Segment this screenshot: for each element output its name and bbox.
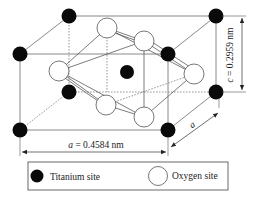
oxygen-atom [96,95,116,115]
dimension-a: a = 0.4584 nm [20,137,168,156]
titanium-atom [62,85,77,100]
oxygen-atom [49,61,69,81]
dimension-c: c = 0.2959 nm [222,16,246,92]
legend-label-titanium: Titanium site [50,172,100,182]
oxygen-atom [134,31,154,51]
titanium-atom-center [120,65,134,79]
rutile-unit-cell-diagram: c = 0.2959 nm a = 0.4584 nm a Titanium s… [0,0,255,198]
oxygen-atom [97,18,117,38]
oxygen-atom [134,107,154,127]
legend: Titanium site Oxygen site [28,162,228,190]
dimension-a-label: a = 0.4584 nm [68,140,124,150]
edge-top-left-depth [20,16,69,54]
titanium-atom [161,123,176,138]
titanium-legend-icon [31,170,44,183]
titanium-atom [209,85,224,100]
dimension-a-depth: a [171,98,219,147]
titanium-atom [62,9,77,24]
oxygen-legend-icon [149,167,168,186]
titanium-atom [161,47,176,62]
edge-top-right-depth [168,16,216,54]
dimension-depth-label: a [187,119,197,130]
oxygen-atom [184,64,204,84]
edge-bottom-left-depth-hidden [20,92,69,130]
titanium-atom [13,123,28,138]
dimension-line-depth [171,113,218,147]
dimension-c-label: c = 0.2959 nm [225,27,235,83]
titanium-atom [13,47,28,62]
legend-label-oxygen: Oxygen site [172,171,218,181]
o-bottom-back-to-right-line [106,74,194,105]
titanium-atom [209,9,224,24]
